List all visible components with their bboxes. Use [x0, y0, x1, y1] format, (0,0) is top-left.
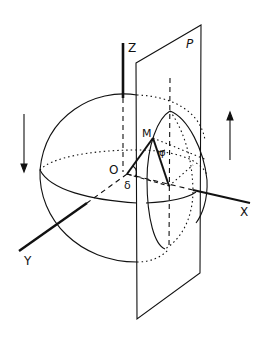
- label-delta: δ: [124, 180, 131, 191]
- sphere-bottom-dotted: [137, 250, 168, 262]
- segment-m-center: [153, 138, 169, 186]
- intersection-circle-right: [170, 111, 207, 223]
- label-x: X: [240, 206, 248, 218]
- label-o: O: [109, 164, 118, 176]
- y-axis-hidden: [87, 174, 127, 203]
- label-p: P: [186, 38, 193, 50]
- circle-vertical-dashed: [169, 78, 170, 249]
- sphere-outline-left: [40, 94, 137, 262]
- x-axis-visible: [193, 190, 250, 203]
- label-m: M: [142, 128, 152, 139]
- equator-front-right: [146, 192, 196, 203]
- plane-p: [136, 25, 201, 319]
- up-arrow-head: [227, 112, 233, 120]
- center-dashed-to-o: [127, 174, 169, 186]
- down-arrow-head: [21, 164, 27, 172]
- label-z: Z: [128, 42, 136, 54]
- equator-front: [40, 170, 137, 203]
- label-y: Y: [24, 255, 31, 267]
- center-dotted: [169, 165, 193, 186]
- label-phi: φ: [159, 148, 166, 158]
